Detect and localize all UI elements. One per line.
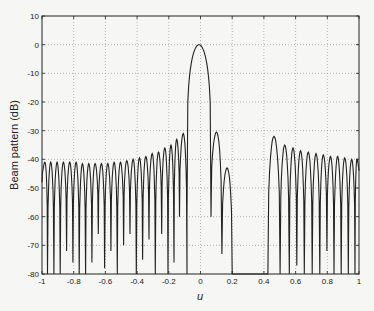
x-tick-label: 0 — [198, 277, 203, 286]
y-tick-label: -50 — [27, 184, 39, 193]
x-tick-label: -0.6 — [99, 277, 113, 286]
x-tick-label: -0.8 — [67, 277, 81, 286]
y-tick-label: 10 — [30, 12, 39, 21]
x-tick-label: 1 — [357, 277, 362, 286]
y-tick-label: -60 — [27, 213, 39, 222]
x-tick-label: -0.2 — [162, 277, 176, 286]
y-axis-label: Beam pattern (dB) — [8, 100, 20, 190]
y-tick-label: -30 — [27, 127, 39, 136]
y-tick-label: -70 — [27, 241, 39, 250]
y-tick-label: -20 — [27, 98, 39, 107]
y-tick-label: -80 — [27, 270, 39, 279]
x-tick-label: 0.4 — [258, 277, 270, 286]
y-tick-label: -40 — [27, 155, 39, 164]
y-tick-label: 0 — [35, 41, 40, 50]
x-tick-label: 0.6 — [290, 277, 302, 286]
x-tick-label: -1 — [38, 277, 46, 286]
x-tick-label: -0.4 — [130, 277, 144, 286]
x-tick-label: 0.2 — [227, 277, 239, 286]
y-tick-label: -10 — [27, 69, 39, 78]
beam-pattern-chart: -1-0.8-0.6-0.4-0.200.20.40.60.81100-10-2… — [0, 0, 374, 311]
x-tick-label: 0.8 — [322, 277, 334, 286]
x-axis-label: u — [197, 290, 203, 302]
